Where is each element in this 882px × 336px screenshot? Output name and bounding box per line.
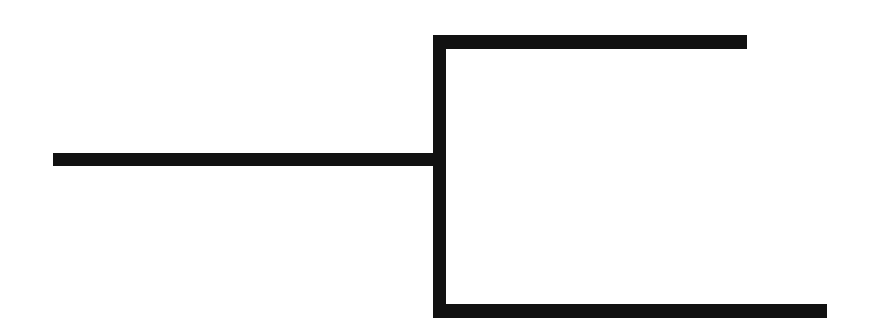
root-branch-line: [53, 153, 446, 166]
tree-diagram: [0, 0, 882, 336]
lower-branch-line: [433, 304, 827, 318]
trunk-line: [433, 35, 446, 318]
upper-branch-line: [433, 35, 747, 49]
